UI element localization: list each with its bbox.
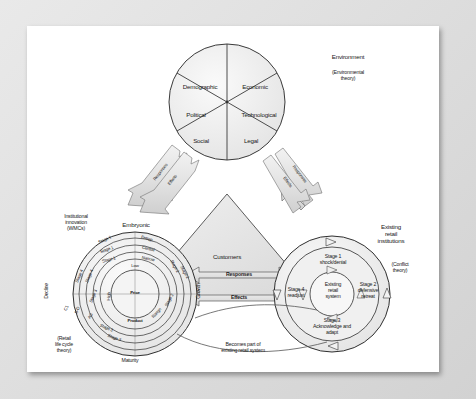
environment-heading: Environment bbox=[309, 54, 387, 61]
innovation-phase-maturity: Maturity bbox=[99, 358, 161, 364]
effects-label: Effects bbox=[209, 295, 269, 301]
existing-stage-1: Stage 1 shock/denial bbox=[304, 254, 362, 266]
customers-label: Customers bbox=[197, 254, 257, 261]
existing-heading: Existing retail institutions bbox=[357, 224, 425, 245]
becomes-part-of-label: Becomes part of existing retail system bbox=[195, 342, 291, 354]
env-segment-demographic: Demographic bbox=[175, 84, 225, 91]
env-segment-legal: Legal bbox=[231, 138, 271, 145]
env-segment-economic: Economic bbox=[231, 84, 279, 91]
environment-theory: (Environmental theory) bbox=[309, 70, 387, 82]
existing-center-label: Existing retail system bbox=[313, 282, 353, 299]
innovation-attr-low: Low bbox=[121, 264, 149, 269]
innovation-heading: Institutional innovation (WMCs) bbox=[39, 214, 113, 231]
diagram-page: Demographic Economic Technological Legal… bbox=[27, 26, 439, 372]
innovation-phase-growth: Growth bbox=[196, 269, 202, 313]
env-segment-political: Political bbox=[173, 112, 219, 119]
innovation-attr-high: High bbox=[107, 282, 112, 310]
innovation-attr-product: Product bbox=[121, 319, 149, 324]
env-segment-social: Social bbox=[179, 138, 223, 145]
innovation-center-label: Price bbox=[117, 291, 153, 296]
responses-label: Responses bbox=[209, 272, 269, 278]
existing-stage-3: Stage 3 Acknowledge and adapt bbox=[290, 318, 374, 335]
innovation-phase-decline: Decline bbox=[44, 269, 50, 313]
innovation-phase-embryonic: Embryonic bbox=[105, 222, 167, 229]
innovation-theory: (Retail life cycle theory) bbox=[33, 336, 95, 353]
image-frame: Demographic Economic Technological Legal… bbox=[0, 0, 476, 399]
env-segment-technological: Technological bbox=[231, 112, 287, 119]
existing-theory: (Conflict theory) bbox=[371, 262, 429, 274]
